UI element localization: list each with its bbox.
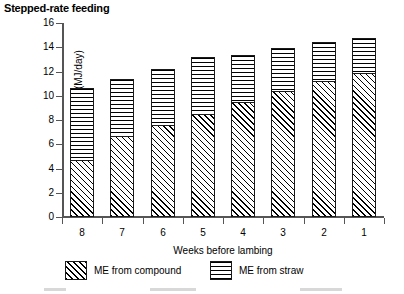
- y-axis-tick-label: 4: [48, 162, 54, 175]
- bar-segment-straw: [312, 42, 336, 82]
- bar-segment-straw: [110, 79, 134, 137]
- x-axis-tick-mark: [384, 218, 385, 224]
- legend-entry-compound: ME from compound: [65, 261, 181, 280]
- page-scan-artifact: [0, 288, 404, 294]
- x-axis-tick-label: 8: [72, 226, 92, 239]
- x-axis-tick-label: 7: [112, 226, 132, 239]
- bar-group: [70, 88, 94, 217]
- bar-group: [151, 69, 175, 217]
- bar-group: [312, 42, 336, 217]
- legend-swatch-compound-icon: [65, 261, 87, 280]
- bar-group: [231, 55, 255, 217]
- bar-segment-straw: [271, 48, 295, 91]
- bar-segment-compound: [191, 114, 215, 217]
- y-axis-tick-label: 10: [43, 89, 54, 102]
- x-axis-tick-label: 6: [153, 226, 173, 239]
- y-axis-tick-label: 8: [48, 113, 54, 126]
- x-axis-tick-mark: [223, 218, 224, 224]
- bar-segment-straw: [231, 55, 255, 103]
- y-axis-tick-mark: [56, 23, 62, 24]
- x-axis-tick-label: 3: [273, 226, 293, 239]
- bar-group: [271, 48, 295, 217]
- y-axis-tick-label: 14: [43, 40, 54, 53]
- x-axis-tick-mark: [344, 218, 345, 224]
- legend-label-straw: ME from straw: [239, 265, 303, 276]
- x-axis-tick-label: 5: [193, 226, 213, 239]
- y-axis-tick-mark: [56, 193, 62, 194]
- y-axis-tick-mark: [56, 120, 62, 121]
- y-axis-tick-label: 6: [48, 137, 54, 150]
- bar-segment-straw: [352, 38, 376, 74]
- y-axis-tick-mark: [56, 169, 62, 170]
- x-axis-tick-mark: [263, 218, 264, 224]
- x-axis-tick-label: 4: [233, 226, 253, 239]
- x-axis-tick-label: 2: [314, 226, 334, 239]
- bar-segment-straw: [151, 69, 175, 126]
- bar-segment-compound: [312, 81, 336, 217]
- bar-group: [191, 57, 215, 217]
- x-axis-tick-mark: [102, 218, 103, 224]
- bar-segment-straw: [191, 57, 215, 115]
- chart-title: Stepped-rate feeding: [4, 2, 109, 14]
- x-axis-tick-mark: [62, 218, 63, 224]
- bar-group: [110, 79, 134, 217]
- x-axis-title: Weeks before lambing: [62, 245, 384, 256]
- bar-segment-compound: [352, 73, 376, 217]
- bar-segment-compound: [151, 125, 175, 217]
- bar-segment-compound: [231, 102, 255, 217]
- y-axis-tick-label: 16: [43, 16, 54, 29]
- y-axis-tick-mark: [56, 144, 62, 145]
- x-axis-tick-mark: [143, 218, 144, 224]
- bar-segment-straw: [70, 88, 94, 161]
- legend-entry-straw: ME from straw: [210, 261, 303, 280]
- bar-segment-compound: [70, 160, 94, 217]
- legend-swatch-straw-icon: [210, 261, 232, 280]
- x-axis-tick-mark: [183, 218, 184, 224]
- y-axis-tick-label: 12: [43, 65, 54, 78]
- chart-legend: ME from compound ME from straw: [62, 261, 384, 287]
- y-axis-tick-label: 2: [48, 186, 54, 199]
- y-axis-tick-mark: [56, 72, 62, 73]
- bar-segment-compound: [271, 91, 295, 217]
- x-axis-tick-label: 1: [354, 226, 374, 239]
- y-axis-tick-mark: [56, 96, 62, 97]
- bar-segment-compound: [110, 136, 134, 217]
- plot-area: ME (MJ/day) Weeks before lambing 0246810…: [62, 23, 384, 217]
- legend-label-compound: ME from compound: [94, 265, 181, 276]
- y-axis-tick-mark: [56, 47, 62, 48]
- x-axis-tick-mark: [304, 218, 305, 224]
- bar-group: [352, 38, 376, 217]
- y-axis-tick-label: 0: [48, 210, 54, 223]
